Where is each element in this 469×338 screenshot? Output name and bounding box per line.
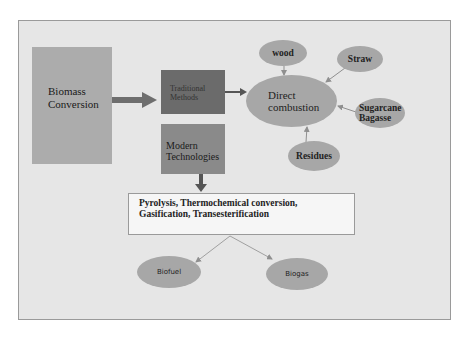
direct-combustion-label: Direct combustion [268,89,319,113]
traditional-methods-box: Traditional Methods [161,70,225,114]
process-methods-box: Pyrolysis, Thermochemical conversion, Ga… [128,193,355,235]
biogas-label: Biogas [285,269,308,279]
sugarcane-bagasse-node: Sugarcane Bagasse [355,98,405,128]
straw-label: Straw [348,54,372,64]
biofuel-label: Biofuel [157,267,181,277]
residues-node: Residues [288,141,340,171]
sugarcane-bagasse-label: Sugarcane Bagasse [359,103,402,123]
biomass-conversion-label: Biomass Conversion [48,85,99,110]
biogas-node: Biogas [266,258,328,290]
residues-label: Residues [296,151,332,161]
modern-technologies-box: Modern Technologies [161,124,225,174]
biomass-conversion-box: Biomass Conversion [32,47,112,164]
wood-label: wood [272,48,294,58]
direct-combustion-node: Direct combustion [246,75,337,127]
traditional-methods-label: Traditional Methods [170,84,205,102]
straw-node: Straw [337,46,383,72]
wood-node: wood [259,40,307,66]
biofuel-node: Biofuel [137,256,201,288]
modern-technologies-label: Modern Technologies [166,140,219,162]
process-methods-label: Pyrolysis, Thermochemical conversion, Ga… [139,198,298,219]
